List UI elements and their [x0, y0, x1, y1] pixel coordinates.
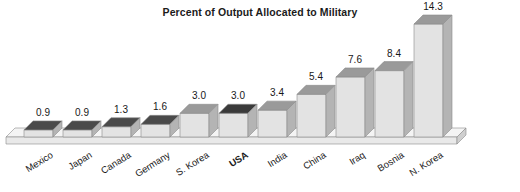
value-label: 3.0: [231, 90, 245, 101]
value-label: 8.4: [387, 48, 401, 59]
bars-group: [24, 15, 452, 137]
bar-chart-figure: Percent of Output Allocated to Military …: [0, 0, 520, 192]
plot-area: 0.9 0.9 1.3 1.6 3.0 3.0 3.4 5.4 7.6 8.4 …: [0, 0, 520, 192]
value-label: 0.9: [75, 107, 89, 118]
value-label: 3.4: [270, 87, 284, 98]
value-label: 7.6: [348, 54, 362, 65]
value-label: 3.0: [192, 90, 206, 101]
value-label: 5.4: [309, 71, 323, 82]
value-label: 0.9: [36, 107, 50, 118]
value-label: 14.3: [423, 1, 442, 12]
value-label: 1.6: [153, 101, 167, 112]
value-label: 1.3: [114, 104, 128, 115]
